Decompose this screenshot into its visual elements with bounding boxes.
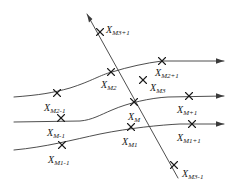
label-x-m2: XM2 [101, 80, 117, 90]
marker-x-m-minus-1 [58, 115, 65, 122]
label-subscript: M1 [128, 141, 137, 149]
marker-layer [54, 29, 196, 169]
label-subscript: M2 [107, 84, 116, 92]
label-subscript: M+1 [183, 109, 197, 117]
label-x-m3: XM3 [150, 83, 166, 93]
marker-x-m2-minus-1 [54, 90, 61, 97]
label-subscript: M3-1 [188, 173, 203, 181]
arrow-diagonal-upleft [87, 14, 92, 22]
label-subscript: M1-1 [54, 159, 69, 167]
label-x-m3-minus-1: XM3-1 [182, 169, 203, 179]
marker-x-m3-plus-1 [97, 29, 104, 36]
label-x-m2-minus-1: XM2-1 [44, 103, 65, 113]
label-subscript: M2+1 [161, 72, 179, 80]
label-x-m-minus-1: XM-1 [47, 128, 65, 138]
characteristic-curves-figure: XM3+1XM2+1XM2XM3XM2-1XMXM+1XM-1XM1XM1+1X… [0, 0, 234, 188]
label-subscript: M3 [156, 87, 165, 95]
upper-characteristic-curve [14, 61, 224, 97]
label-x-m1-plus-1: XM1+1 [177, 133, 201, 143]
label-x-m2-plus-1: XM2+1 [155, 68, 179, 78]
label-x-m: XM [128, 112, 140, 122]
arrow-middle-right [216, 93, 224, 99]
label-x-m1-minus-1: XM1-1 [48, 155, 69, 165]
marker-x-m1 [128, 124, 135, 131]
label-subscript: M1+1 [183, 137, 201, 145]
label-x-m1: XM1 [122, 137, 138, 147]
diagonal-characteristic-curve [87, 14, 178, 178]
curve-layer [14, 14, 224, 178]
label-x-m3-plus-1: XM3+1 [106, 25, 130, 35]
marker-x-m3 [140, 77, 147, 84]
label-subscript: M3+1 [112, 29, 130, 37]
arrow-lower-right [216, 121, 224, 127]
label-x-m-plus-1: XM+1 [177, 105, 197, 115]
label-subscript: M [134, 116, 140, 124]
marker-x-m3-minus-1 [171, 162, 178, 169]
arrow-upper-right [216, 58, 224, 64]
label-subscript: M2-1 [50, 107, 65, 115]
label-subscript: M-1 [53, 132, 65, 140]
marker-x-m-plus-1 [186, 93, 193, 100]
